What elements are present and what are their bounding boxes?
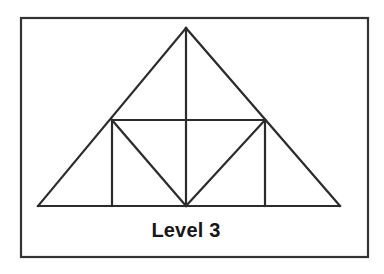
- figure-caption-label: Level 3: [151, 219, 220, 241]
- figure-container: Level 3: [0, 0, 384, 274]
- level-3-triangle-figure: Level 3: [0, 0, 384, 274]
